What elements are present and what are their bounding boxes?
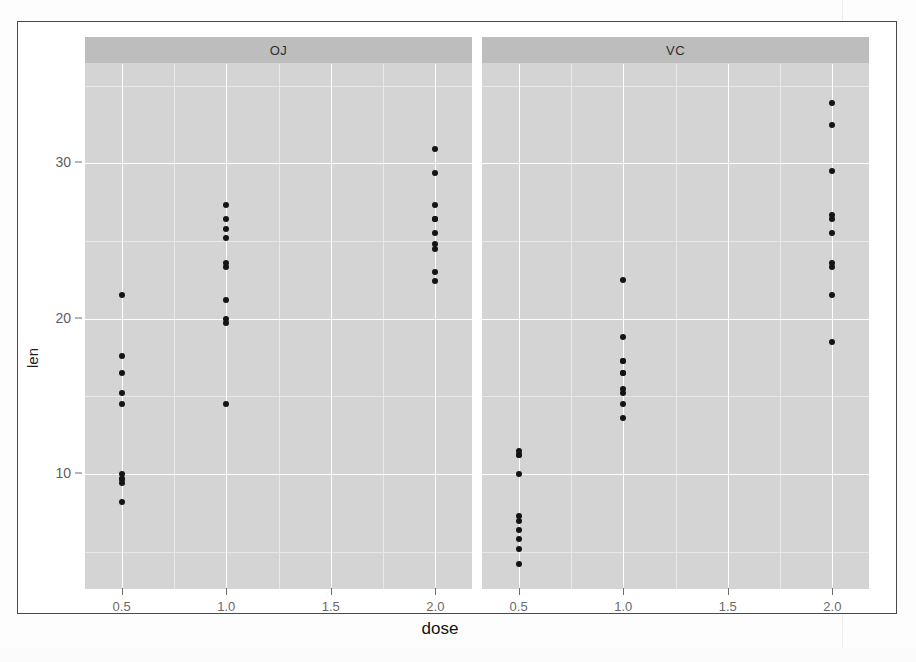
data-point bbox=[223, 226, 229, 232]
data-point bbox=[829, 339, 835, 345]
y-tick-label: 30 bbox=[55, 154, 71, 170]
data-point bbox=[432, 269, 438, 275]
data-point bbox=[829, 122, 835, 128]
data-point bbox=[223, 235, 229, 241]
y-tick-mark bbox=[75, 317, 82, 318]
y-gridline-major bbox=[482, 474, 869, 475]
data-point bbox=[620, 358, 626, 364]
data-point bbox=[829, 100, 835, 106]
data-point bbox=[223, 216, 229, 222]
data-point bbox=[119, 370, 125, 376]
data-point bbox=[223, 260, 229, 266]
data-point bbox=[620, 334, 626, 340]
facet-panel-oj: OJ bbox=[85, 37, 472, 589]
y-tick-label: 10 bbox=[55, 465, 71, 481]
data-point bbox=[620, 370, 626, 376]
data-point bbox=[829, 230, 835, 236]
data-point bbox=[432, 216, 438, 222]
data-point bbox=[432, 230, 438, 236]
y-tick-mark bbox=[75, 473, 82, 474]
data-point bbox=[119, 499, 125, 505]
x-gridline-major bbox=[832, 64, 833, 589]
x-gridline-minor bbox=[780, 64, 781, 589]
figure-page: OJ VC 102030 len 0.51.01.52.00.51.01.52.… bbox=[0, 0, 916, 662]
x-tick-label-oj: 2.0 bbox=[426, 599, 444, 614]
x-tick-mark-oj bbox=[122, 588, 123, 595]
y-tick-label: 20 bbox=[55, 310, 71, 326]
y-gridline-major bbox=[85, 163, 472, 164]
x-gridline-minor bbox=[676, 64, 677, 589]
data-point bbox=[119, 390, 125, 396]
x-gridline-minor bbox=[571, 64, 572, 589]
x-tick-label-oj: 1.5 bbox=[322, 599, 340, 614]
y-tick-mark bbox=[75, 162, 82, 163]
x-tick-label-vc: 1.0 bbox=[614, 599, 632, 614]
data-point bbox=[223, 316, 229, 322]
data-point bbox=[516, 527, 522, 533]
plot-area-vc bbox=[482, 64, 869, 589]
data-point bbox=[829, 168, 835, 174]
x-tick-mark-oj bbox=[435, 588, 436, 595]
facet-strip-label-oj: OJ bbox=[270, 43, 288, 58]
data-point bbox=[223, 401, 229, 407]
x-axis-title: dose bbox=[0, 619, 880, 639]
x-axis: 0.51.01.52.00.51.01.52.0 bbox=[0, 588, 916, 618]
x-tick-label-oj: 0.5 bbox=[113, 599, 131, 614]
x-tick-mark-oj bbox=[331, 588, 332, 595]
data-point bbox=[516, 561, 522, 567]
data-point bbox=[432, 146, 438, 152]
x-tick-label-vc: 0.5 bbox=[510, 599, 528, 614]
x-tick-mark-vc bbox=[623, 588, 624, 595]
data-point bbox=[223, 202, 229, 208]
y-gridline-major bbox=[482, 163, 869, 164]
facet-strip-vc: VC bbox=[482, 37, 869, 64]
x-tick-label-vc: 2.0 bbox=[823, 599, 841, 614]
data-point bbox=[516, 546, 522, 552]
x-tick-label-oj: 1.0 bbox=[217, 599, 235, 614]
data-point bbox=[223, 297, 229, 303]
y-gridline-major bbox=[482, 319, 869, 320]
y-gridline-major bbox=[85, 319, 472, 320]
data-point bbox=[119, 401, 125, 407]
data-point bbox=[516, 536, 522, 542]
scan-bottom-artifact bbox=[0, 648, 916, 662]
x-tick-mark-vc bbox=[519, 588, 520, 595]
x-gridline-major bbox=[519, 64, 520, 589]
facet-strip-label-vc: VC bbox=[666, 43, 685, 58]
facet-strip-oj: OJ bbox=[85, 37, 472, 64]
data-point bbox=[119, 353, 125, 359]
x-gridline-major bbox=[435, 64, 436, 589]
data-point bbox=[620, 386, 626, 392]
y-gridline-major bbox=[85, 474, 472, 475]
x-tick-label-vc: 1.5 bbox=[719, 599, 737, 614]
data-point bbox=[119, 292, 125, 298]
x-gridline-major bbox=[623, 64, 624, 589]
data-point bbox=[516, 471, 522, 477]
x-gridline-minor bbox=[279, 64, 280, 589]
y-axis: 102030 bbox=[17, 37, 85, 588]
data-point bbox=[432, 170, 438, 176]
data-point bbox=[432, 241, 438, 247]
data-point bbox=[829, 264, 835, 270]
plot-area-oj bbox=[85, 64, 472, 589]
data-point bbox=[516, 452, 522, 458]
data-point bbox=[119, 476, 125, 482]
data-point bbox=[516, 518, 522, 524]
data-point bbox=[620, 415, 626, 421]
x-gridline-major bbox=[728, 64, 729, 589]
facet-panel-vc: VC bbox=[482, 37, 869, 589]
x-gridline-major bbox=[331, 64, 332, 589]
x-tick-mark-oj bbox=[226, 588, 227, 595]
data-point bbox=[829, 292, 835, 298]
y-axis-title: len bbox=[24, 348, 41, 368]
x-gridline-major bbox=[226, 64, 227, 589]
data-point bbox=[620, 401, 626, 407]
x-tick-mark-vc bbox=[728, 588, 729, 595]
x-gridline-minor bbox=[383, 64, 384, 589]
x-gridline-major bbox=[122, 64, 123, 589]
data-point bbox=[432, 278, 438, 284]
x-tick-mark-vc bbox=[832, 588, 833, 595]
x-gridline-minor bbox=[174, 64, 175, 589]
data-point bbox=[620, 277, 626, 283]
data-point bbox=[432, 202, 438, 208]
